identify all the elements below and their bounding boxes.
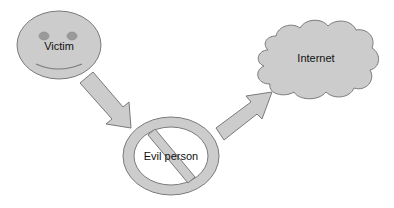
victim-label: Victim xyxy=(44,40,74,52)
arrow-evil-to-internet xyxy=(216,92,272,140)
arrow-victim-to-evil xyxy=(80,72,131,128)
victim-node: Victim xyxy=(17,11,101,79)
internet-node: Internet xyxy=(258,20,379,99)
diagram-canvas: Victim Evil person Internet xyxy=(0,0,394,208)
evil-person-node: Evil person xyxy=(123,117,219,195)
left-eye-icon xyxy=(39,32,49,40)
right-eye-icon xyxy=(67,32,77,40)
internet-label: Internet xyxy=(297,52,334,64)
evil-person-label: Evil person xyxy=(144,150,198,162)
